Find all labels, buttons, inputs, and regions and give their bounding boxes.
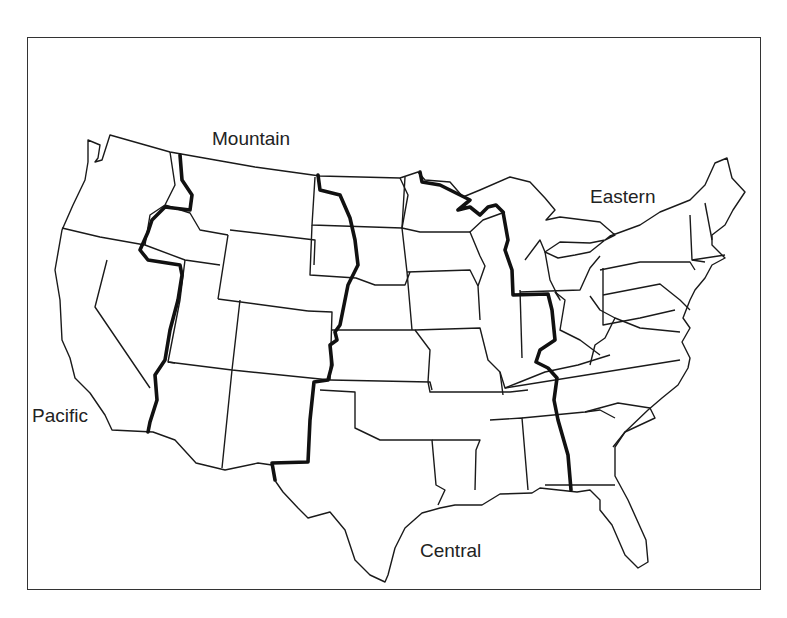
time-zone-boundaries: [140, 155, 571, 490]
pacific-mountain-boundary: [140, 155, 192, 432]
mountain-central-boundary: [272, 175, 358, 480]
label-eastern: Eastern: [590, 186, 655, 208]
label-central: Central: [420, 540, 481, 562]
label-mountain: Mountain: [212, 128, 290, 150]
us-time-zone-map: [0, 0, 787, 618]
label-pacific: Pacific: [32, 405, 88, 427]
